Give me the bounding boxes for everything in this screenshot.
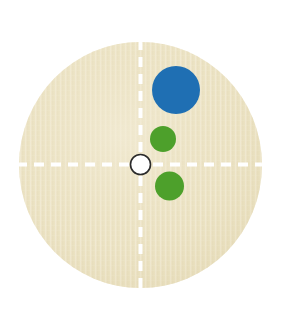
large-blue-colony[interactable] — [152, 66, 200, 114]
small-green-colony-lower[interactable] — [155, 172, 184, 201]
figure-canvas — [0, 0, 293, 313]
petri-dish-diagram — [0, 0, 293, 313]
center-origin-marker[interactable] — [131, 155, 151, 175]
small-green-colony-upper[interactable] — [150, 126, 176, 152]
